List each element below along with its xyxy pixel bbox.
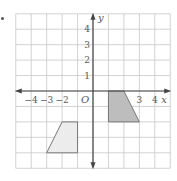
x-tick-label: −2 <box>55 95 68 105</box>
x-tick-label: −4 <box>25 95 39 105</box>
origin-label: O <box>81 94 89 105</box>
axes <box>15 13 172 170</box>
y-tick-label: 4 <box>84 24 90 34</box>
y-tick-label: 1 <box>84 71 90 81</box>
x-tick-label: −3 <box>40 95 54 105</box>
x-axis-label: x <box>161 94 167 105</box>
y-tick-label: 3 <box>84 40 90 50</box>
x-tick-label: 4 <box>152 95 158 105</box>
y-axis-label: y <box>97 12 104 23</box>
y-tick-label: 2 <box>84 55 90 65</box>
coordinate-plane: x y O −4−3−2341234 <box>0 0 177 181</box>
x-tick-label: 3 <box>136 95 142 105</box>
